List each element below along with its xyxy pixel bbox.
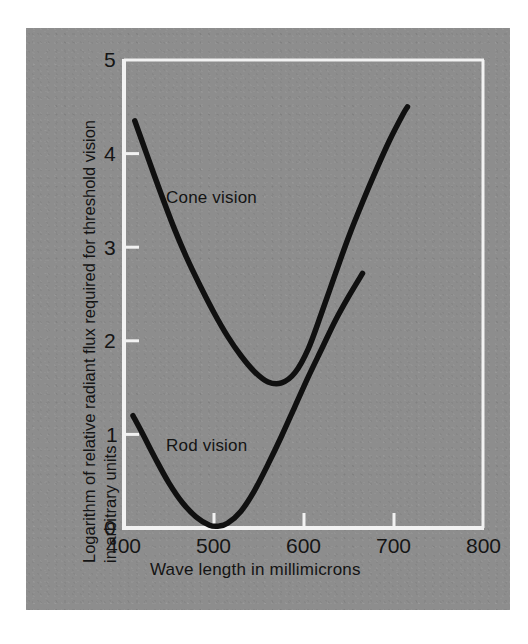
y-tick-label-1: 1 — [106, 424, 118, 445]
x-tick-label-500: 500 — [196, 535, 231, 556]
y-tick-label-5: 5 — [104, 49, 116, 70]
x-tick-label-800: 800 — [466, 535, 501, 556]
chart-plot-area — [0, 0, 528, 644]
x-axis-title: Wave length in millimicrons — [150, 560, 361, 580]
y-tick-label-2: 2 — [104, 330, 116, 351]
curve-rod-vision — [133, 273, 363, 526]
y-tick-label-4: 4 — [104, 143, 116, 164]
x-tick-label-700: 700 — [376, 535, 411, 556]
axis-frame — [122, 59, 484, 529]
y-tick-label-3: 3 — [104, 237, 116, 258]
figure-container: 5 4 3 2 1 0 400 500 600 700 800 Cone vis… — [0, 0, 528, 644]
curve-cone-vision — [135, 107, 408, 384]
series-label-cone-vision: Cone vision — [166, 189, 257, 206]
y-axis-ticks — [124, 154, 139, 435]
series-label-rod-vision: Rod vision — [166, 437, 247, 454]
x-tick-label-400: 400 — [106, 535, 141, 556]
x-tick-label-600: 600 — [286, 535, 321, 556]
